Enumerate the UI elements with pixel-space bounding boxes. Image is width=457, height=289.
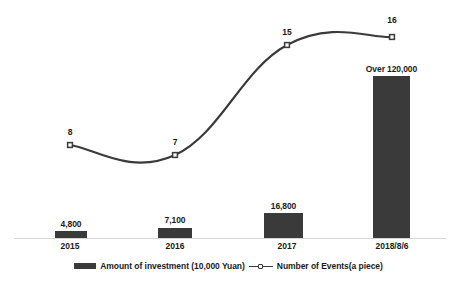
line-series-markers [68,35,395,158]
line-marker-2015[interactable] [68,143,73,148]
line-marker-2017[interactable] [285,43,290,48]
point-value-label-2015: 8 [40,127,100,137]
chart-legend: Amount of investment (10,000 Yuan) Numbe… [0,261,457,271]
legend-bar-swatch-icon [74,263,96,269]
x-axis-label-2015: 2015 [30,241,110,251]
legend-entry-investment[interactable]: Amount of investment (10,000 Yuan) [74,261,245,271]
x-axis-label-2018: 2018/8/6 [352,241,432,251]
legend-entry-events[interactable]: Number of Events(a piece) [245,261,383,271]
combo-chart: 4,800 7,100 16,800 Over 120,000 8 7 15 1… [0,0,457,289]
x-axis-label-2016: 2016 [135,241,215,251]
line-series-path [70,32,392,163]
line-series [0,0,457,240]
plot-area: 4,800 7,100 16,800 Over 120,000 8 7 15 1… [0,0,457,240]
point-value-label-2018: 16 [362,15,422,25]
line-marker-2016[interactable] [173,153,178,158]
point-value-label-2017: 15 [257,27,317,37]
line-marker-2018/8/6[interactable] [390,35,395,40]
legend-line-swatch-icon [249,262,273,270]
point-value-label-2016: 7 [145,137,205,147]
legend-label-events: Number of Events(a piece) [277,261,383,271]
legend-label-investment: Amount of investment (10,000 Yuan) [100,261,245,271]
x-axis-label-2017: 2017 [247,241,327,251]
